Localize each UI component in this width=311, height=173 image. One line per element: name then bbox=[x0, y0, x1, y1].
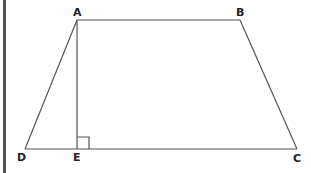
label-c: C bbox=[293, 152, 301, 165]
label-e: E bbox=[73, 151, 81, 164]
label-d: D bbox=[17, 151, 26, 164]
trapezoid-diagram: A B C D E bbox=[0, 0, 311, 173]
segment-da bbox=[25, 20, 77, 149]
right-angle-marker bbox=[77, 137, 89, 149]
label-b: B bbox=[236, 6, 244, 19]
label-a: A bbox=[73, 6, 82, 19]
segment-bc bbox=[240, 20, 297, 149]
